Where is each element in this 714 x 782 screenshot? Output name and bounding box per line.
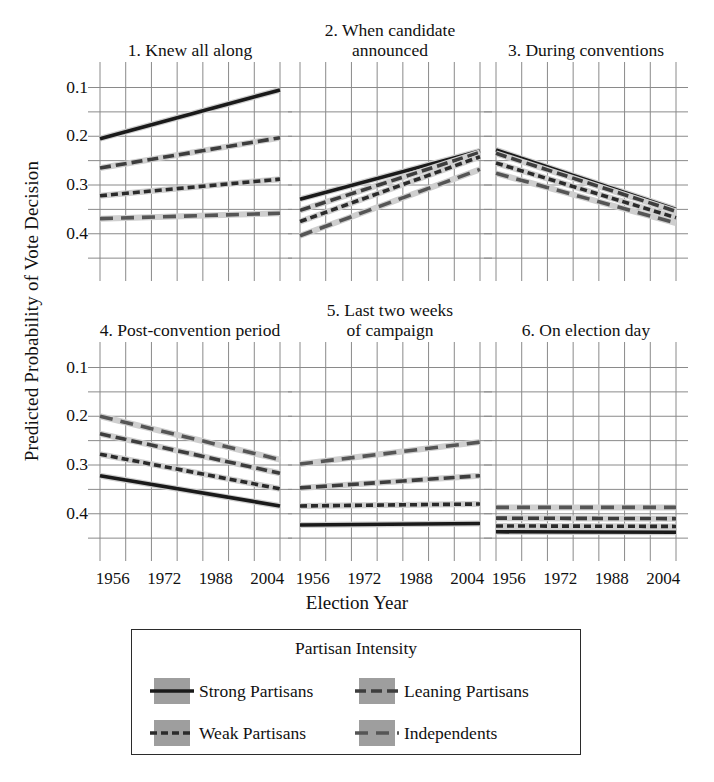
x-tick-label: 1988 [390, 569, 442, 589]
legend-swatch-weak [154, 720, 190, 746]
y-tick-label: 0.3 [42, 174, 88, 195]
panel-title-6: 6. On election day [454, 320, 714, 340]
panel-title-3: 3. During conventions [454, 40, 714, 60]
y-tick-label: 0.2 [42, 125, 88, 146]
legend-label-independents: Independents [404, 723, 497, 744]
x-tick-label: 1972 [534, 569, 586, 589]
legend-item-weak[interactable]: Weak Partisans [154, 720, 359, 746]
legend-swatch-independents [359, 720, 395, 746]
x-tick-label: 2004 [241, 569, 293, 589]
y-tick-label: 0.1 [42, 357, 88, 378]
x-tick-label: 1972 [138, 569, 190, 589]
x-tick-label: 1972 [338, 569, 390, 589]
x-axis-label: Election Year [0, 592, 714, 614]
legend-label-strong: Strong Partisans [199, 681, 313, 702]
legend-item-independents[interactable]: Independents [359, 720, 564, 746]
legend-swatch-leaning [359, 678, 395, 704]
legend-items: Strong PartisansLeaning PartisansWeak Pa… [154, 670, 564, 754]
legend-label-weak: Weak Partisans [199, 723, 306, 744]
legend: Partisan Intensity Strong PartisansLeani… [131, 629, 581, 755]
x-tick-label: 1956 [287, 569, 339, 589]
legend-swatch-strong [154, 678, 190, 704]
x-tick-label: 1988 [190, 569, 242, 589]
legend-title: Partisan Intensity [132, 638, 580, 659]
x-tick-label: 1988 [586, 569, 638, 589]
x-tick-label: 1956 [87, 569, 139, 589]
x-tick-label: 2004 [637, 569, 689, 589]
x-tick-label: 1956 [483, 569, 535, 589]
legend-item-strong[interactable]: Strong Partisans [154, 678, 359, 704]
legend-label-leaning: Leaning Partisans [404, 681, 529, 702]
y-tick-label: 0.4 [42, 223, 88, 244]
y-tick-label: 0.1 [42, 77, 88, 98]
y-tick-label: 0.2 [42, 405, 88, 426]
figure-canvas: Predicted Probability of Vote Decision E… [0, 0, 714, 782]
legend-item-leaning[interactable]: Leaning Partisans [359, 678, 564, 704]
y-tick-label: 0.3 [42, 454, 88, 475]
y-tick-label: 0.4 [42, 503, 88, 524]
